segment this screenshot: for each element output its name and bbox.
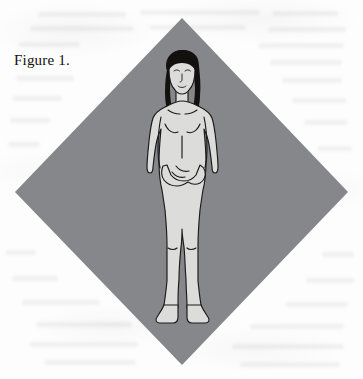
scanned-page: Figure 1. (0, 0, 363, 379)
figure-caption: Figure 1. (14, 52, 70, 69)
